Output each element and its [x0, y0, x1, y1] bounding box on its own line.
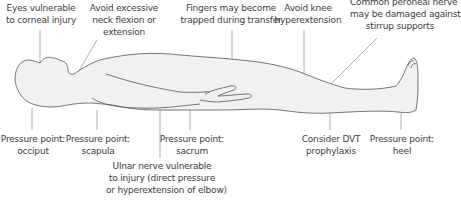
label-line: Pressure point:: [0, 133, 66, 145]
label-line: Ulnar nerve vulnerable: [106, 160, 218, 172]
label-line: Pressure point:: [64, 133, 132, 145]
label-dvt-prophylaxis: Consider DVT prophylaxis: [298, 133, 364, 157]
label-line: neck flexion or: [86, 14, 162, 26]
label-line: Common peroneal nerve: [350, 0, 450, 8]
label-line: Pressure point:: [368, 133, 436, 145]
label-line: Eyes vulnerable: [2, 2, 80, 14]
label-line: Consider DVT: [298, 133, 364, 145]
label-line: Avoid knee: [272, 2, 344, 14]
label-line: to injury (direct pressure: [106, 172, 218, 184]
label-pressure-scapula: Pressure point: scapula: [64, 133, 132, 157]
label-ulnar-nerve: Ulnar nerve vulnerable to injury (direct…: [106, 160, 218, 196]
label-knee-hyperextension: Avoid knee hyperextension: [272, 2, 344, 26]
label-line: stirrup supports: [350, 20, 450, 32]
label-line: heel: [368, 145, 436, 157]
label-line: sacrum: [158, 145, 226, 157]
label-line: prophylaxis: [298, 145, 364, 157]
label-pressure-heel: Pressure point: heel: [368, 133, 436, 157]
label-line: extension: [86, 26, 162, 38]
label-eyes-corneal-injury: Eyes vulnerable to corneal injury: [2, 2, 80, 26]
label-neck-flexion: Avoid excessive neck flexion or extensio…: [86, 2, 162, 38]
label-line: scapula: [64, 145, 132, 157]
label-line: Avoid excessive: [86, 2, 162, 14]
label-line: hyperextension: [272, 14, 344, 26]
label-line: may be damaged against: [350, 8, 450, 20]
label-common-peroneal-nerve: Common peroneal nerve may be damaged aga…: [350, 0, 450, 32]
label-line: to corneal injury: [2, 14, 80, 26]
label-pressure-sacrum: Pressure point: sacrum: [158, 133, 226, 157]
label-line: occiput: [0, 145, 66, 157]
label-line: or hyperextension of elbow): [106, 184, 218, 196]
label-pressure-occiput: Pressure point: occiput: [0, 133, 66, 157]
patient-body: [15, 53, 418, 113]
label-line: Pressure point:: [158, 133, 226, 145]
